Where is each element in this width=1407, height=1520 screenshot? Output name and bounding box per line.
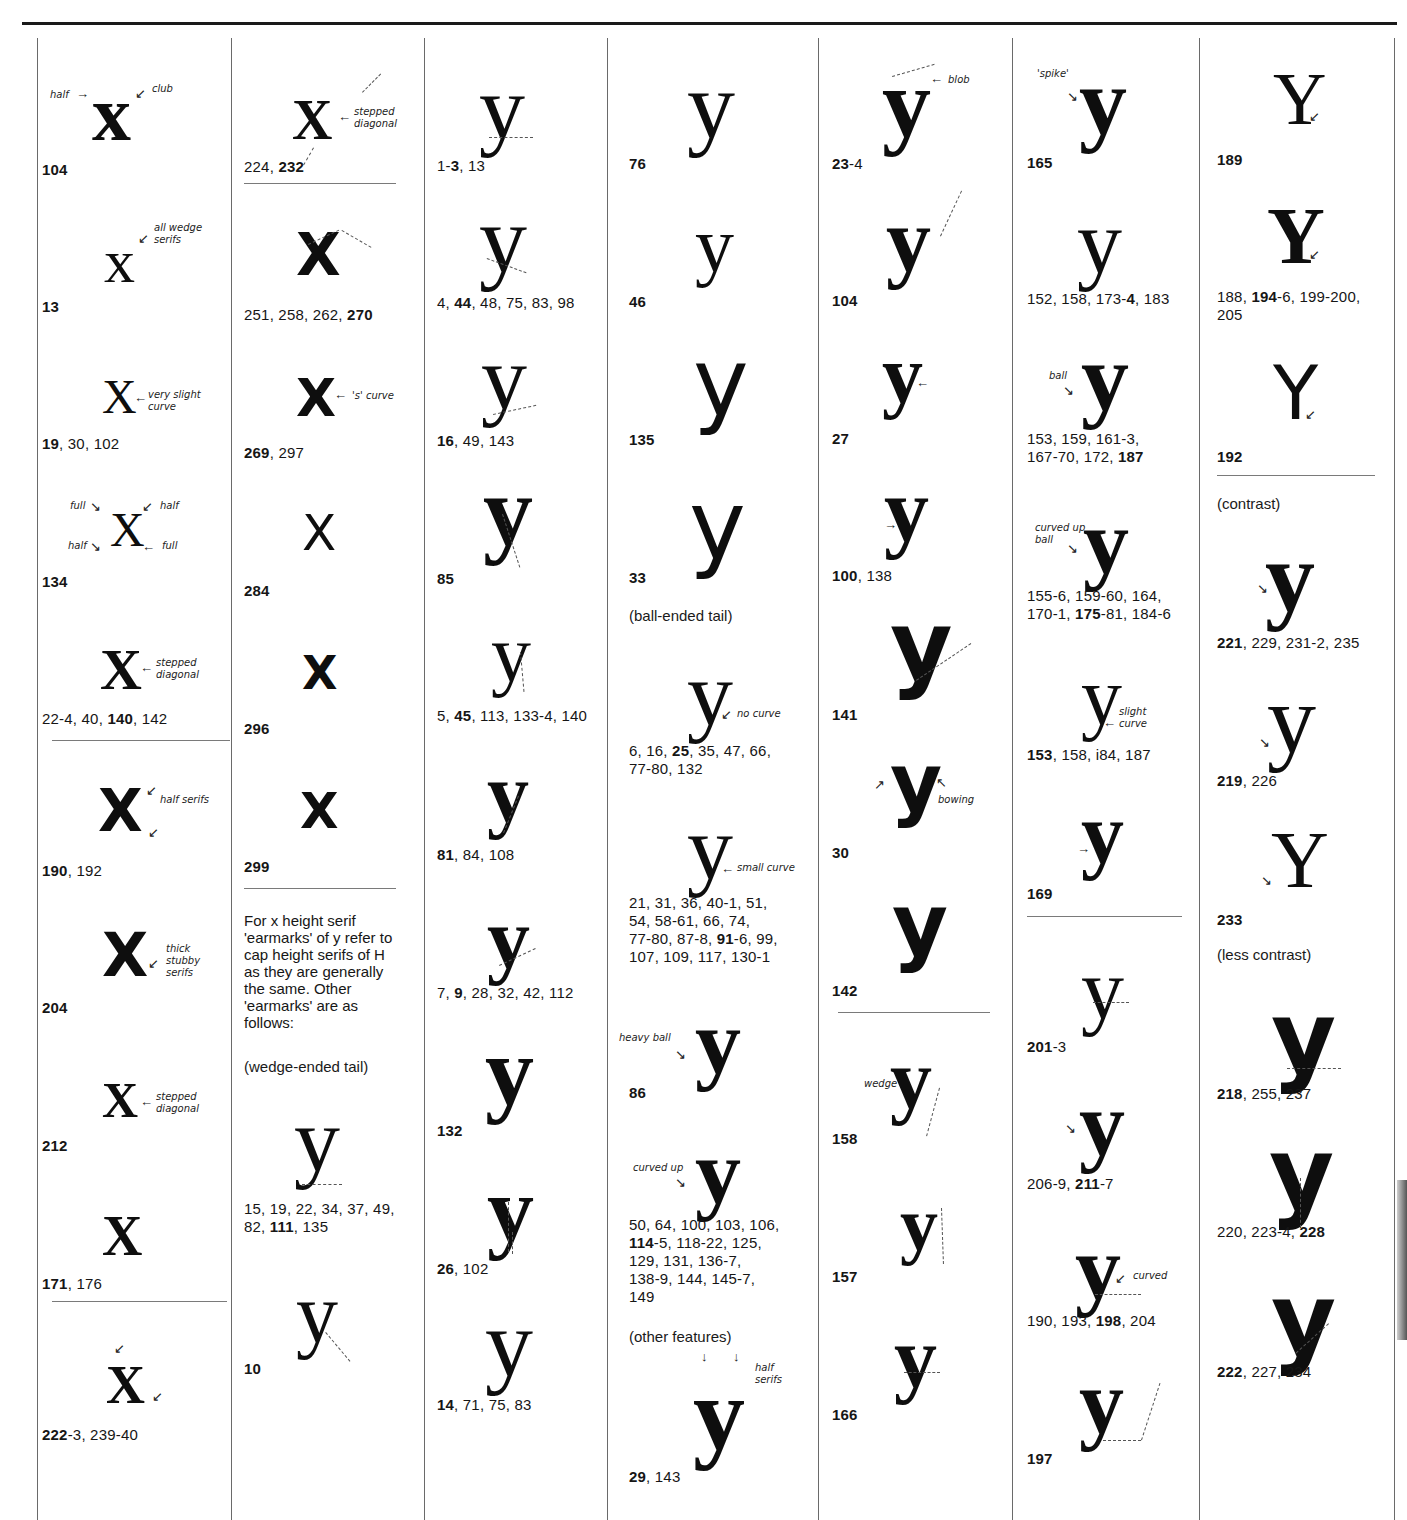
explanatory-note: For x height serif 'earmarks' of y refer…	[244, 912, 404, 1031]
pointer-arrow-icon: ←	[338, 110, 351, 123]
specimen-glyph: y	[487, 1162, 534, 1256]
annotation-label: 'spike'	[1037, 68, 1069, 80]
typeface-reference-numbers: 212	[42, 1137, 68, 1155]
typeface-reference-numbers: 14, 71, 75, 83	[437, 1396, 532, 1414]
typeface-reference-numbers: 221, 229, 231-2, 235	[1217, 634, 1359, 652]
typeface-reference-numbers: 219, 226	[1217, 772, 1277, 790]
guide-line	[1093, 1002, 1129, 1003]
specimen-glyph: y	[693, 1362, 745, 1466]
typeface-reference-numbers: 16, 49, 143	[437, 432, 514, 450]
specimen-glyph: y	[1079, 54, 1127, 150]
typeface-reference-numbers: 153, 158, i84, 187	[1027, 746, 1151, 764]
typeface-reference-numbers: 222-3, 239-40	[42, 1426, 138, 1444]
specimen-glyph: x	[92, 75, 131, 153]
specimen-glyph: X	[102, 925, 148, 985]
section-separator	[1217, 475, 1375, 476]
typeface-reference-numbers: 204	[42, 999, 68, 1017]
typeface-reference-numbers: 153, 159, 161-3,167-70, 172, 187	[1027, 430, 1144, 466]
typeface-reference-numbers: 251, 258, 262, 270	[244, 306, 373, 324]
typeface-reference-numbers: 5, 45, 113, 133-4, 140	[437, 707, 587, 725]
guide-line	[1287, 1068, 1341, 1069]
pointer-arrow-icon: ↙	[152, 1390, 163, 1403]
annotation-label: stepped diagonal	[354, 106, 397, 130]
specimen-glyph: y	[479, 62, 525, 154]
page-edge-shadow	[1397, 1180, 1407, 1340]
annotation-label: club	[152, 83, 173, 95]
guide-line	[1103, 1440, 1141, 1441]
typeface-reference-numbers: 50, 64, 100, 103, 106,114-5, 118-22, 125…	[629, 1216, 779, 1306]
typeface-reference-numbers: 224, 232	[244, 158, 304, 176]
pointer-arrow-icon: ↓	[733, 1350, 740, 1363]
specimen-glyph: y	[491, 614, 531, 694]
annotation-label: half serifs	[160, 794, 209, 806]
specimen-glyph: y	[481, 332, 527, 424]
typeface-reference-numbers: 190, 193, 198, 204	[1027, 1312, 1156, 1330]
pointer-arrow-icon: ↘	[1257, 582, 1268, 595]
specimen-glyph: X	[296, 226, 341, 284]
specimen-glyph: y	[485, 1296, 533, 1392]
specimen-glyph: y	[890, 744, 942, 824]
section-separator	[1027, 916, 1182, 917]
typeface-reference-numbers: 21, 31, 36, 40-1, 51,54, 58-61, 66, 74,7…	[629, 894, 778, 966]
specimen-glyph: y	[894, 1314, 937, 1400]
typeface-reference-numbers: 81, 84, 108	[437, 846, 514, 864]
typeface-reference-numbers: 100, 138	[832, 567, 892, 585]
specimen-glyph: X	[300, 786, 339, 836]
typeface-reference-numbers: 188, 194-6, 199-200,205	[1217, 288, 1360, 324]
pointer-arrow-icon: ↘	[1065, 1122, 1076, 1135]
pointer-arrow-icon: ←	[134, 391, 147, 404]
column-divider	[1394, 38, 1395, 1520]
pointer-arrow-icon: ↙	[138, 232, 149, 245]
pointer-arrow-icon: ↘	[1063, 384, 1074, 397]
column-divider	[818, 38, 819, 1520]
typeface-reference-numbers: 152, 158, 173-4, 183	[1027, 290, 1169, 308]
typeface-reference-numbers: 222, 227, 234	[1217, 1363, 1311, 1381]
specimen-glyph: y	[1269, 1124, 1334, 1224]
specimen-glyph: y	[687, 802, 733, 894]
specimen-glyph: y	[1267, 670, 1316, 768]
annotation-label: half	[50, 89, 69, 101]
typeface-reference-numbers: 218, 255, 237	[1217, 1085, 1311, 1103]
typeface-reference-numbers: 296	[244, 720, 270, 738]
guide-line	[302, 1184, 342, 1185]
column-3: y1-3, 13y4, 44, 48, 75, 83, 98y16, 49, 1…	[425, 0, 610, 1520]
pointer-arrow-icon: ↘	[675, 1048, 686, 1061]
typeface-reference-numbers: 134	[42, 573, 68, 591]
pointer-arrow-icon: ←	[334, 388, 347, 401]
annotation-label: stepped diagonal	[156, 657, 199, 681]
specimen-glyph: X	[110, 506, 145, 554]
pointer-arrow-icon: →	[1077, 842, 1090, 855]
specimen-glyph: y	[689, 478, 746, 574]
pointer-arrow-icon: ↙	[1309, 248, 1320, 261]
column-1: x→↙halfclub104x↙all wedge serifs13X←very…	[30, 0, 215, 1520]
specimen-glyph: y	[892, 882, 948, 968]
annotation-label: bowing	[938, 794, 974, 806]
typeface-reference-numbers: 166	[832, 1406, 858, 1424]
specimen-glyph: X	[100, 641, 142, 699]
section-heading: (other features)	[629, 1328, 732, 1345]
typeface-reference-numbers: 169	[1027, 885, 1053, 903]
annotation-label: small curve	[737, 862, 795, 874]
pointer-arrow-icon: →	[884, 518, 897, 531]
typeface-reference-numbers: 142	[832, 982, 858, 1000]
column-4: (ball-ended tail)(other features)y76y46y…	[617, 0, 802, 1520]
typeface-reference-numbers: 269, 297	[244, 444, 304, 462]
pointer-arrow-icon: ↘	[1067, 90, 1078, 103]
typeface-reference-numbers: 76	[629, 155, 646, 173]
specimen-glyph: y	[695, 206, 734, 284]
column-2: (wedge-ended tail)For x height serif 'ea…	[232, 0, 417, 1520]
specimen-glyph: X	[106, 1358, 145, 1412]
specimen-glyph: y	[483, 462, 533, 562]
typeface-reference-numbers: 10	[244, 1360, 261, 1378]
annotation-label: heavy ball	[619, 1032, 671, 1044]
specimen-glyph: y	[1081, 330, 1129, 426]
column-divider	[1012, 38, 1013, 1520]
annotation-label: ball	[1049, 370, 1067, 382]
specimen-glyph: y	[900, 1186, 938, 1262]
pointer-arrow-icon: ↙	[1305, 408, 1316, 421]
typeface-reference-numbers: 23-4	[832, 155, 863, 173]
specimen-glyph: X	[102, 1075, 138, 1125]
section-separator	[838, 1012, 990, 1013]
section-separator	[244, 183, 396, 184]
guide-line	[512, 1232, 513, 1254]
